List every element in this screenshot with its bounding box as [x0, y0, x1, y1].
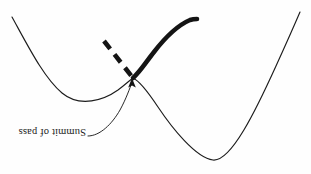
terrain-diagram-svg	[0, 0, 311, 174]
reaction-path-dashed-curve	[104, 41, 133, 78]
summit-leader-line	[88, 82, 132, 136]
figure-root: Summit of pass	[0, 0, 311, 174]
reaction-path-solid-curve	[133, 19, 197, 78]
summit-of-pass-label: Summit of pass	[14, 126, 86, 139]
